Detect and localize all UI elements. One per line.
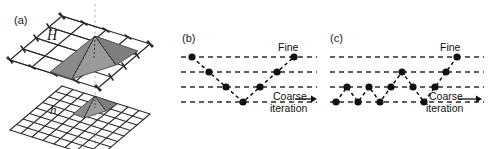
panel-c-graphics	[318, 0, 492, 149]
panel-b-graphics	[165, 0, 325, 149]
panel-c: (c) Fine Coarse iteration	[318, 0, 492, 149]
multigrid-figure: (a) H h	[0, 0, 492, 149]
panel-b-cycle-path	[192, 57, 294, 102]
coarse-basis-function	[50, 36, 138, 79]
panel-a-graphics	[0, 0, 170, 149]
panel-b-level-lines	[181, 57, 317, 102]
panel-c-cycle-path	[336, 57, 457, 102]
fine-grid-h	[10, 86, 150, 149]
panel-b-cycle-nodes	[188, 53, 297, 105]
panel-b: (b) Fine Coarse iteration	[165, 0, 325, 149]
panel-a: (a) H h	[0, 0, 170, 149]
